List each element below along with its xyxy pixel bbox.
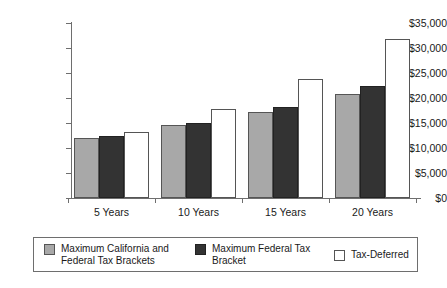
- legend-label-line1: Tax-Deferred: [351, 249, 409, 260]
- x-axis-tick: [155, 198, 156, 203]
- bar: [298, 79, 323, 198]
- bar: [385, 39, 410, 198]
- bar: [248, 112, 273, 198]
- bar: [186, 123, 211, 198]
- bar: [74, 138, 99, 199]
- bar: [99, 136, 124, 198]
- dark-swatch-icon: [195, 244, 206, 255]
- plot-area: [72, 23, 420, 198]
- gray-swatch-icon: [44, 244, 55, 255]
- white-swatch-icon: [334, 250, 345, 261]
- legend-label-line2: Federal Tax Brackets: [61, 255, 155, 266]
- chart-legend: Maximum California and Federal Tax Brack…: [33, 237, 418, 272]
- x-axis-tick-label: 15 Years: [265, 206, 306, 218]
- legend-label: Maximum California and Federal Tax Brack…: [61, 243, 181, 267]
- legend-label: Tax-Deferred: [351, 249, 433, 261]
- x-axis-tick: [329, 198, 330, 203]
- x-axis-line: [66, 198, 421, 199]
- legend-item-tax-deferred: Tax-Deferred: [334, 249, 433, 261]
- x-axis-tick: [68, 198, 69, 203]
- legend-item-max-california-federal: Maximum California and Federal Tax Brack…: [44, 243, 181, 267]
- bar: [335, 94, 360, 198]
- legend-item-max-federal: Maximum Federal Tax Bracket: [195, 243, 320, 267]
- bar: [360, 86, 385, 198]
- x-axis-tick-label: 5 Years: [94, 206, 129, 218]
- x-axis-tick-label: 20 Years: [352, 206, 393, 218]
- x-axis-tick: [242, 198, 243, 203]
- legend-label-line2: Bracket: [212, 255, 246, 266]
- bar: [161, 125, 186, 198]
- legend-label-line1: Maximum California and: [61, 243, 169, 254]
- legend-label: Maximum Federal Tax Bracket: [212, 243, 320, 267]
- x-axis-tick-label: 10 Years: [178, 206, 219, 218]
- chart-container: $0$5,000$10,000$15,000$20,000$25,000$30,…: [0, 0, 447, 288]
- bar: [124, 132, 149, 199]
- x-axis-tick: [416, 198, 417, 203]
- legend-label-line1: Maximum Federal Tax: [212, 243, 310, 254]
- bar: [273, 107, 298, 198]
- bar: [211, 109, 236, 198]
